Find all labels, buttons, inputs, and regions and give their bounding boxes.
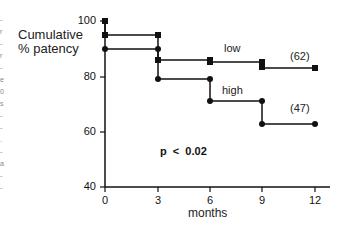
y-tick-label: 40: [74, 180, 96, 192]
p-value-annotation: p < 0.02: [160, 145, 207, 157]
x-tick-label: 3: [148, 194, 168, 206]
series-count-low: (62): [290, 50, 310, 62]
x-tick-label: 12: [305, 194, 325, 206]
series-low-markers: [102, 18, 318, 71]
x-tick-label: 0: [95, 194, 115, 206]
y-tick-label: 80: [74, 70, 96, 82]
y-tick-label: 60: [74, 125, 96, 137]
x-tick-label: 6: [200, 194, 220, 206]
chart-plot-area: [0, 0, 346, 230]
series-label-low: low: [224, 42, 241, 54]
y-tick-label: 100: [74, 14, 96, 26]
series-count-high: (47): [290, 102, 310, 114]
x-axis-label: months: [188, 206, 227, 220]
x-tick-label: 9: [252, 194, 272, 206]
series-label-high: high: [222, 84, 243, 96]
